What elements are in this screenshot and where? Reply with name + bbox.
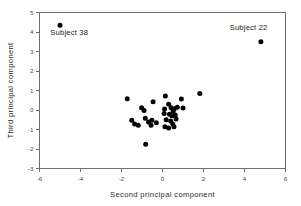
data-point (142, 108, 147, 113)
y-tick-label: -3 (28, 165, 34, 172)
x-axis-title: Second principal component (110, 190, 215, 199)
data-point (181, 106, 186, 111)
data-point (149, 118, 154, 123)
x-axis-ticks: -6-4-20246 (37, 169, 288, 182)
annotation-label: Subject 22 (230, 23, 268, 32)
data-point (143, 116, 148, 121)
y-tick-label: 3 (30, 48, 34, 55)
data-point (162, 107, 167, 112)
annotation-label: Subject 38 (50, 28, 88, 37)
y-tick-label: -1 (28, 126, 34, 133)
data-point (151, 99, 156, 104)
x-tick-label: -2 (119, 175, 125, 182)
data-point (162, 124, 167, 129)
data-point (197, 91, 202, 96)
data-point (179, 97, 184, 102)
data-point (163, 93, 168, 98)
y-tick-label: 2 (30, 67, 34, 74)
x-tick-label: 4 (243, 175, 247, 182)
data-point (171, 124, 176, 129)
data-point (175, 105, 180, 110)
data-point (136, 123, 141, 128)
y-tick-label: 5 (30, 9, 34, 16)
y-tick-label: 1 (30, 87, 34, 94)
y-axis-ticks: -3-2-1012345 (28, 9, 40, 172)
x-tick-label: 6 (284, 175, 288, 182)
data-point (258, 39, 263, 44)
y-tick-label: 0 (30, 106, 34, 113)
data-point (174, 116, 179, 121)
point-annotations: Subject 38Subject 22 (50, 23, 267, 37)
y-axis-title: Third principal component (6, 42, 15, 139)
scatter-chart: -6-4-20246 -3-2-1012345 Subject 38Subjec… (0, 0, 301, 206)
data-point (154, 120, 159, 125)
data-point (149, 123, 154, 128)
x-tick-label: -4 (78, 175, 84, 182)
x-tick-label: 2 (202, 175, 206, 182)
data-point (162, 111, 167, 116)
data-point-series (58, 23, 264, 147)
y-tick-label: 4 (30, 28, 34, 35)
y-tick-label: -2 (28, 145, 34, 152)
data-point (164, 117, 169, 122)
scatter-plot-figure: -6-4-20246 -3-2-1012345 Subject 38Subjec… (0, 0, 301, 206)
data-point (125, 96, 130, 101)
x-tick-label: 0 (161, 175, 165, 182)
data-point (143, 142, 148, 147)
x-tick-label: -6 (37, 175, 43, 182)
